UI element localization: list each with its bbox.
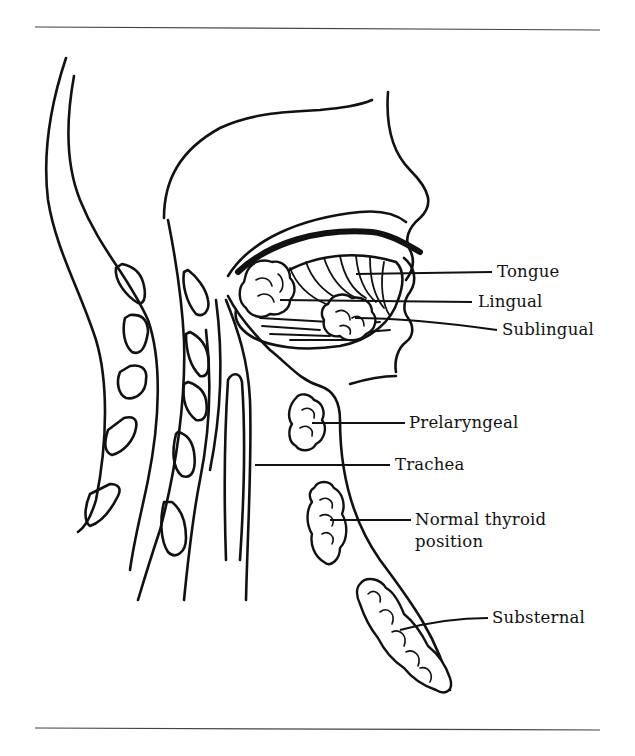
leader-lines bbox=[255, 272, 497, 630]
anatomy-drawing bbox=[0, 0, 635, 756]
label-trachea: Trachea bbox=[395, 455, 465, 475]
esophagus bbox=[225, 374, 244, 560]
label-prelaryngeal: Prelaryngeal bbox=[409, 413, 519, 433]
vertebrae-posterior bbox=[86, 264, 149, 526]
head-outline bbox=[164, 92, 428, 280]
leader-tongue bbox=[356, 272, 492, 274]
label-lingual: Lingual bbox=[478, 292, 543, 312]
vertebrae-anterior bbox=[161, 270, 208, 555]
label-tongue: Tongue bbox=[497, 262, 559, 282]
label-normal-thyroid-line1: Normal thyroid bbox=[415, 510, 546, 530]
anatomy-figure: Tongue Lingual Sublingual Prelaryngeal T… bbox=[0, 0, 635, 756]
label-substernal: Substernal bbox=[492, 608, 585, 628]
label-sublingual: Sublingual bbox=[502, 320, 594, 340]
posterior-neck-outline bbox=[46, 58, 158, 570]
normal-thyroid-gland bbox=[308, 482, 347, 564]
label-normal-thyroid-line2: position bbox=[415, 532, 483, 552]
leader-lingual bbox=[280, 300, 472, 302]
substernal-thyroid-gland bbox=[357, 579, 451, 692]
bottom-rule bbox=[35, 728, 600, 730]
top-rule bbox=[35, 27, 600, 30]
lingual-thyroid-gland bbox=[240, 261, 295, 317]
